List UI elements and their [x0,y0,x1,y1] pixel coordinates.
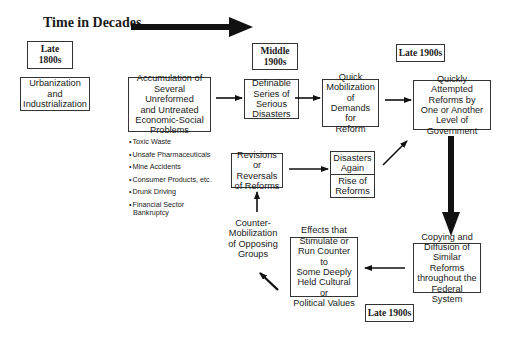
flow-arrows [0,0,508,344]
big-down-arrow-icon [442,136,460,236]
time-arrow-icon [131,17,253,37]
